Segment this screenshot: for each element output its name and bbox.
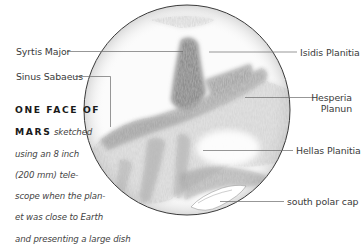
caption-text: et was close to Earth xyxy=(15,207,127,228)
caption-text: sketched xyxy=(51,127,92,137)
label-sinus-sabaeus: Sinus Sabaeus xyxy=(16,71,83,82)
hellas-basin xyxy=(196,130,260,166)
caption-text: using an 8 inch xyxy=(15,144,127,165)
label-syrtis-major: Syrtis Major xyxy=(16,46,70,57)
caption-text: (200 mm) tele- xyxy=(15,165,127,186)
caption-text: and presenting a large dish xyxy=(15,229,127,248)
label-hesperia-line2: Planun xyxy=(321,103,352,114)
label-hellas-planitia: Hellas Planitia xyxy=(296,145,361,156)
label-isidis-planitia: Isidis Planitia xyxy=(300,47,360,58)
caption-title-line1: ONE FACE OF xyxy=(15,104,100,115)
caption-text: scope when the plan- xyxy=(15,186,127,207)
label-south-polar-cap: south polar cap xyxy=(287,196,358,207)
caption-title-line2: MARS xyxy=(15,126,51,137)
figure-caption: ONE FACE OF MARS sketched using an 8 inc… xyxy=(15,99,127,248)
label-hesperia-line1: Hesperia xyxy=(311,92,352,103)
